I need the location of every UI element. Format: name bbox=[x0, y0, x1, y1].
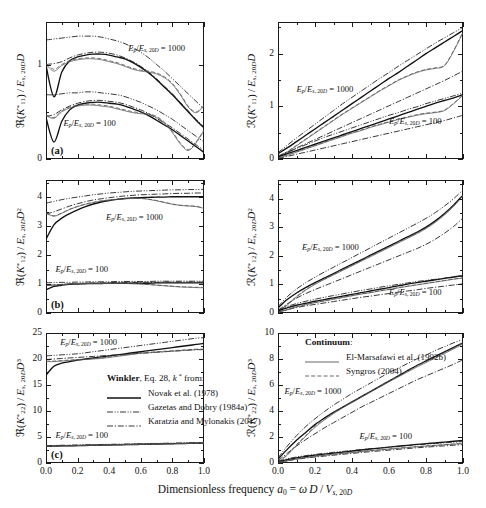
curve-annotation: Ep/Es, 20D = 1000 bbox=[297, 84, 354, 94]
y-tick bbox=[46, 197, 51, 198]
y-tick-minor bbox=[46, 398, 49, 399]
y-tick-label: 4 bbox=[269, 406, 274, 416]
x-tick-minor bbox=[62, 460, 63, 463]
y-tick bbox=[278, 256, 283, 257]
x-tick bbox=[141, 308, 142, 313]
y-tick bbox=[278, 54, 283, 55]
y-tick bbox=[46, 255, 51, 256]
x-tick-minor bbox=[297, 180, 298, 183]
legend-title: Winkler, Eq. 28, k * from: bbox=[107, 373, 261, 383]
y-tick bbox=[46, 411, 51, 412]
curve-annotation: Ep/Es, 20D = 100 bbox=[55, 264, 108, 274]
curve-annotation: Ep/Es, 20D = 1000 bbox=[302, 242, 359, 252]
x-tick-minor bbox=[62, 333, 63, 336]
x-tick bbox=[172, 333, 173, 338]
x-tick-minor bbox=[125, 310, 126, 313]
x-tick bbox=[172, 308, 173, 313]
legend-entry[interactable]: Karatzia and Mylonakis (2017) bbox=[107, 414, 261, 428]
x-tick-minor bbox=[157, 180, 158, 183]
x-tick-minor bbox=[157, 310, 158, 313]
data-curve bbox=[46, 283, 204, 287]
x-tick bbox=[204, 308, 205, 313]
x-tick-minor bbox=[334, 333, 335, 336]
data-curve bbox=[46, 52, 204, 127]
y-tick-label: 8 bbox=[269, 354, 274, 364]
curve-annotation: Ep/Es, 20D = 1000 bbox=[284, 386, 341, 396]
x-tick bbox=[352, 458, 353, 463]
x-tick bbox=[141, 333, 142, 338]
x-tick bbox=[46, 22, 47, 27]
y-tick bbox=[458, 54, 463, 55]
y-tick-minor bbox=[201, 270, 204, 271]
legend-entry[interactable]: El-Marsafawi et al. (1992b) bbox=[305, 350, 446, 364]
x-tick-minor bbox=[93, 22, 94, 25]
legend-label: Gazetas and Dobry (1984a) bbox=[148, 402, 247, 412]
x-tick-label: 0.4 bbox=[346, 467, 358, 477]
x-tick-minor bbox=[125, 22, 126, 25]
y-tick bbox=[278, 313, 283, 314]
x-tick bbox=[463, 458, 464, 463]
x-tick-minor bbox=[371, 156, 372, 159]
y-axis-title: ℛ(K*12) / Es, 20DD2 bbox=[245, 208, 258, 286]
y-axis-title: ℛ(K*11) / Es, 20DD bbox=[245, 53, 258, 127]
y-tick bbox=[278, 284, 283, 285]
curve-annotation: Ep/Es, 20D = 1000 bbox=[106, 212, 163, 222]
y-tick bbox=[278, 159, 283, 160]
x-tick-minor bbox=[188, 22, 189, 25]
y-tick bbox=[199, 463, 204, 464]
x-axis-title: Dimensionless frequency a0 = ω D / Vs, 2… bbox=[158, 483, 353, 497]
y-tick-label: 10 bbox=[265, 328, 275, 338]
x-tick-minor bbox=[297, 460, 298, 463]
y-tick-label: 25 bbox=[33, 328, 43, 338]
y-tick-label: 3 bbox=[37, 222, 42, 232]
y-tick-minor bbox=[460, 398, 463, 399]
legend-entry[interactable]: Gazetas and Dobry (1984a) bbox=[107, 400, 261, 414]
y-tick-minor bbox=[278, 27, 281, 28]
y-tick bbox=[278, 359, 283, 360]
x-tick bbox=[278, 308, 279, 313]
x-tick-label: 0.6 bbox=[135, 467, 147, 477]
y-tick-label: 5 bbox=[37, 432, 42, 442]
x-tick-label: 1.0 bbox=[457, 467, 469, 477]
y-tick bbox=[458, 385, 463, 386]
y-tick bbox=[46, 284, 51, 285]
legend-label: Novak et al. (1978) bbox=[148, 388, 218, 398]
y-tick-label: 3 bbox=[269, 222, 274, 232]
x-tick bbox=[315, 22, 316, 27]
x-tick bbox=[389, 308, 390, 313]
x-tick-minor bbox=[297, 22, 298, 25]
x-tick bbox=[172, 154, 173, 159]
y-tick-label: 15 bbox=[33, 380, 43, 390]
x-tick-minor bbox=[371, 180, 372, 183]
data-curve bbox=[46, 350, 204, 362]
x-tick-label: 0.2 bbox=[309, 467, 321, 477]
y-tick-label: 0 bbox=[269, 308, 274, 318]
x-tick bbox=[315, 308, 316, 313]
x-tick bbox=[315, 458, 316, 463]
y-tick-minor bbox=[201, 112, 204, 113]
y-tick-minor bbox=[201, 241, 204, 242]
x-tick-minor bbox=[371, 22, 372, 25]
x-tick-minor bbox=[334, 156, 335, 159]
y-tick-minor bbox=[201, 346, 204, 347]
y-axis-title: ℜ(K*12) / Es, 20DD2 bbox=[14, 208, 27, 286]
y-tick-label: 0 bbox=[37, 308, 42, 318]
y-tick-minor bbox=[278, 398, 281, 399]
y-tick bbox=[46, 65, 51, 66]
y-tick bbox=[278, 106, 283, 107]
data-curve bbox=[278, 31, 463, 156]
y-tick-minor bbox=[278, 450, 281, 451]
x-tick bbox=[46, 333, 47, 338]
y-tick-label: 2 bbox=[269, 432, 274, 442]
y-tick-minor bbox=[460, 270, 463, 271]
x-tick bbox=[172, 22, 173, 27]
x-tick-minor bbox=[408, 180, 409, 183]
x-tick bbox=[204, 180, 205, 185]
legend-entry[interactable]: Syngros (2004) bbox=[305, 364, 446, 378]
legend-entry[interactable]: Novak et al. (1978) bbox=[107, 386, 261, 400]
x-tick-minor bbox=[371, 310, 372, 313]
y-tick bbox=[46, 437, 51, 438]
x-tick-minor bbox=[62, 156, 63, 159]
y-tick bbox=[278, 199, 283, 200]
y-tick-minor bbox=[201, 450, 204, 451]
